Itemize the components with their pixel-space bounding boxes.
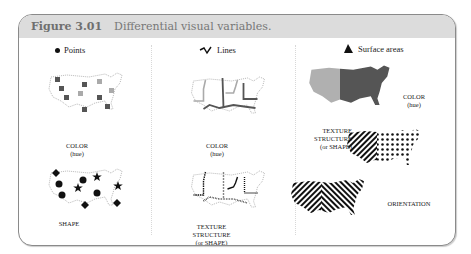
column-divider	[151, 45, 152, 235]
map-points-shape	[47, 167, 127, 212]
label-surface-orientation: ORIENTATION	[384, 200, 434, 208]
figure-number: Figure 3.01	[31, 20, 102, 33]
figure-title: Differential visual variables.	[114, 20, 271, 33]
dot-icon	[55, 48, 60, 53]
map-surface-texture	[345, 127, 425, 172]
figure-panel: Figure 3.01 Differential visual variable…	[18, 14, 456, 246]
label-lines-texture: TEXTURESTRUCTURE(or SHAPE)	[189, 223, 234, 246]
column-title-points: Points	[55, 45, 85, 55]
zigzag-line-icon	[199, 46, 213, 54]
column-title-surface: Surface areas	[344, 44, 404, 54]
label-points-shape: SHAPE	[49, 220, 89, 228]
triangle-area-icon	[344, 44, 354, 54]
map-surface-orientation	[289, 177, 369, 222]
map-surface-color	[307, 63, 395, 113]
label-points-color: COLOR(hue)	[57, 142, 97, 158]
figure-header: Figure 3.01 Differential visual variable…	[19, 15, 455, 38]
map-lines-color	[187, 75, 272, 120]
map-points-color	[47, 71, 127, 116]
column-title-lines: Lines	[199, 45, 236, 55]
label-lines-color: COLOR(hue)	[197, 142, 237, 158]
label-surface-color: COLOR(hue)	[399, 93, 429, 109]
map-lines-texture	[187, 169, 272, 214]
